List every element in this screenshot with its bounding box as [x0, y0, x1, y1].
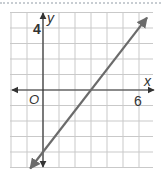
graphed-line — [30, 18, 147, 169]
x-tick-label-6: 6 — [134, 93, 142, 109]
x-axis-label: x — [143, 73, 152, 89]
y-axis-label: y — [46, 10, 55, 26]
coordinate-graph: y x O 4 6 — [0, 0, 161, 171]
y-tick-label-4: 4 — [33, 21, 41, 37]
origin-label: O — [29, 92, 39, 107]
